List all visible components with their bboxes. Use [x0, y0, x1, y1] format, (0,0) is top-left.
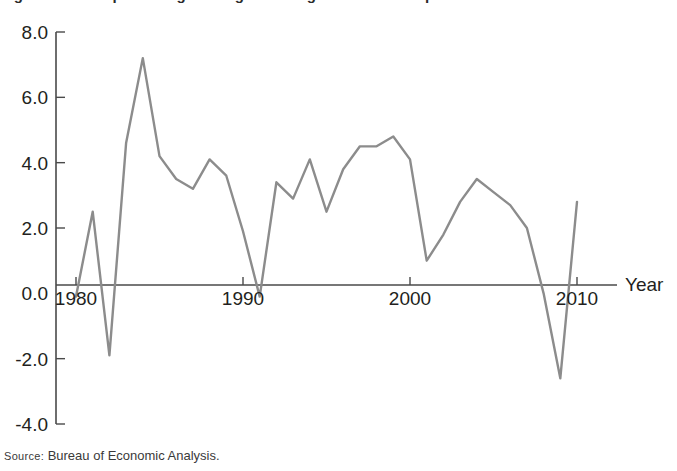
- figure-container: Figure: Annual percentage change in real…: [0, 0, 677, 471]
- y-tick-label: -4.0: [0, 415, 48, 434]
- x-axis-title: Year: [625, 275, 663, 294]
- y-tick-label: -2.0: [0, 350, 48, 369]
- y-tick-label: 8.0: [0, 23, 48, 42]
- x-tick-label: 2010: [537, 289, 617, 308]
- source-text: Bureau of Economic Analysis.: [48, 448, 220, 463]
- y-tick-label: 6.0: [0, 88, 48, 107]
- x-axis-ticks: [76, 277, 577, 285]
- chart-plot-area: 8.06.04.02.00.0-2.0-4.0 1980199020002010…: [0, 0, 677, 440]
- x-tick-label: 1990: [203, 289, 283, 308]
- source-label: Source:: [4, 450, 44, 462]
- source-note: Source: Bureau of Economic Analysis.: [4, 448, 220, 463]
- x-tick-label: 2000: [370, 289, 450, 308]
- x-tick-label: 1980: [36, 289, 116, 308]
- y-axis-ticks: [56, 32, 65, 424]
- y-tick-label: 4.0: [0, 154, 48, 173]
- data-series-line: [76, 58, 577, 378]
- y-tick-label: 2.0: [0, 219, 48, 238]
- line-chart-svg: [0, 0, 677, 440]
